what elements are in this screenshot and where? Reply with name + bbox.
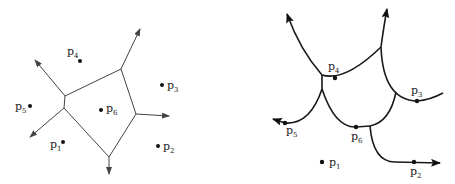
left-sites	[28, 59, 164, 148]
edge-ray	[136, 114, 169, 116]
site-p2	[156, 144, 160, 148]
label-p1: p1	[50, 138, 62, 153]
site-p4	[333, 76, 337, 80]
label-p3: p3	[167, 79, 179, 94]
label-p4: p4	[67, 45, 79, 60]
site-p6	[99, 108, 103, 112]
curve-edge-upper-left	[287, 14, 322, 75]
curve-edge-p6	[322, 89, 370, 127]
site-p3	[415, 99, 419, 103]
site-p4	[78, 59, 82, 63]
label-p4: p4	[328, 60, 340, 75]
label-p2: p2	[163, 140, 175, 155]
edge-ray	[121, 29, 140, 69]
diagram-canvas: p1 p2 p3 p4 p5 p6 p1 p2 p3 p4 p5 p6	[0, 0, 455, 184]
site-p2	[412, 160, 416, 164]
label-p3: p3	[411, 84, 423, 99]
label-p2: p2	[410, 165, 422, 180]
site-p1	[320, 160, 324, 164]
left-labels: p1 p2 p3 p4 p5 p6	[15, 45, 179, 155]
voronoi-cell	[64, 69, 136, 157]
label-p6: p6	[351, 130, 363, 145]
right-sites	[283, 76, 419, 164]
edge-ray	[30, 108, 64, 137]
label-p5: p5	[286, 124, 298, 139]
left-voronoi-diagram	[30, 29, 169, 174]
site-p5	[28, 104, 32, 108]
label-p6: p6	[106, 102, 118, 117]
edge-ray	[35, 60, 65, 96]
site-p1	[61, 140, 65, 144]
label-p5: p5	[15, 100, 27, 115]
curve-edge-middle	[370, 92, 396, 126]
site-p3	[160, 83, 164, 87]
site-p6	[354, 125, 358, 129]
curve-edge-p5	[273, 89, 322, 123]
label-p1: p1	[329, 156, 341, 171]
curve-edge-p2	[370, 126, 440, 163]
curve-edge-upper-right	[381, 9, 387, 47]
